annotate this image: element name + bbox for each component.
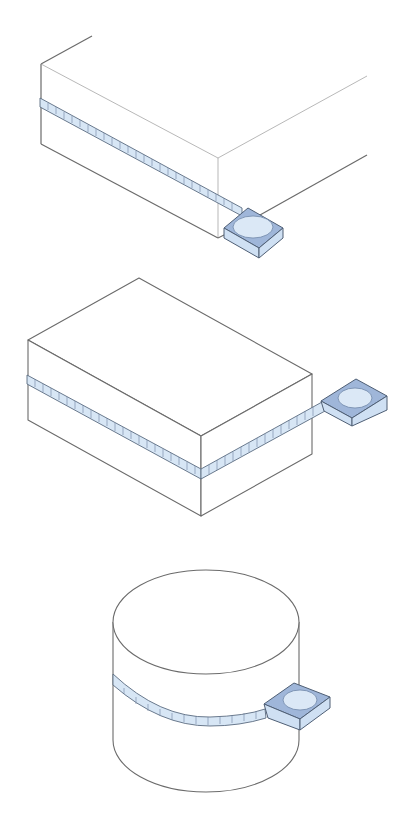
tape-measure-case (321, 379, 387, 426)
tape-dial (283, 690, 317, 710)
tape-dial (338, 388, 372, 408)
panel-2-box (27, 278, 387, 516)
tape-dial (233, 216, 273, 238)
panel-1-flat-box (40, 36, 367, 258)
panel-3-cylinder (113, 570, 330, 792)
tape-strip (40, 98, 242, 216)
diagram-canvas (0, 0, 409, 831)
tape-measure-case (224, 208, 283, 258)
